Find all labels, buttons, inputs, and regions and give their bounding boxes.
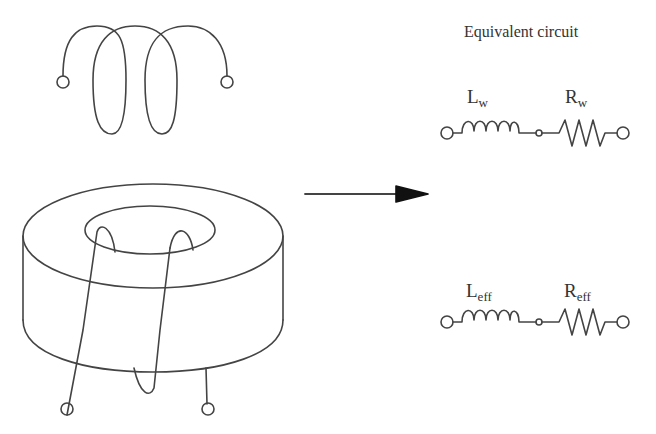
terminal-icon [441, 316, 453, 328]
inductor-label-eff: Leff [466, 280, 492, 305]
terminal-icon [221, 76, 233, 88]
node-icon [536, 319, 542, 325]
terminal-icon [202, 403, 214, 415]
resistor-icon [542, 120, 617, 146]
node-icon [536, 130, 542, 136]
resistor-symbol: R [564, 280, 577, 301]
inductor-label-w: Lw [467, 86, 488, 111]
resistor-label-eff: Reff [564, 280, 591, 305]
winding-circuit-schematic [441, 120, 629, 146]
arrow-right-icon [305, 186, 428, 202]
air-coil-drawing [57, 26, 233, 134]
toroid-drawing [23, 184, 283, 415]
resistor-label-w: Rw [565, 86, 587, 111]
resistor-subscript: w [578, 95, 587, 110]
diagram-title: Equivalent circuit [464, 23, 578, 41]
terminal-icon [617, 127, 629, 139]
inductor-subscript: eff [478, 289, 492, 304]
inductor-icon [453, 121, 536, 133]
inductor-symbol: L [467, 86, 479, 107]
inductor-icon [453, 310, 536, 322]
resistor-symbol: R [565, 86, 578, 107]
equivalent-circuit-diagram: Equivalent circuit Lw Rw Leff Reff [0, 0, 656, 434]
inductor-subscript: w [479, 95, 488, 110]
terminal-icon [441, 127, 453, 139]
resistor-icon [542, 309, 617, 335]
inductor-symbol: L [466, 280, 478, 301]
terminal-icon [617, 316, 629, 328]
effective-circuit-schematic [441, 309, 629, 335]
terminal-icon [57, 76, 69, 88]
resistor-subscript: eff [577, 289, 591, 304]
